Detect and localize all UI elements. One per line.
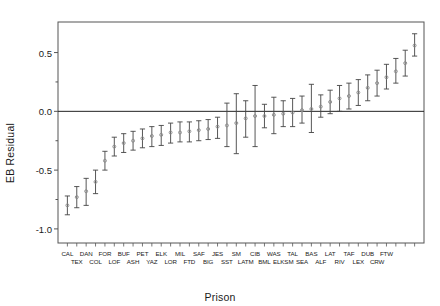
x-tick-label: CIB — [250, 250, 260, 257]
x-tick-label: BUF — [118, 250, 130, 257]
x-tick-label: FOR — [99, 250, 112, 257]
error-bar-point — [412, 34, 417, 56]
x-tick-label: YAZ — [146, 258, 157, 265]
x-tick-label: WAS — [267, 250, 281, 257]
error-bar-point — [234, 94, 239, 154]
chart-figure: EB Residual Prison 0.50.0-0.5-1.0 CALTEX… — [0, 0, 440, 306]
x-tick-label: DUB — [361, 250, 374, 257]
error-bar-point — [74, 187, 79, 208]
error-bar-point — [365, 75, 370, 101]
error-bar-point — [187, 122, 192, 142]
error-bar-point — [112, 137, 117, 156]
plot-frame — [58, 22, 424, 243]
x-tick-label: TAF — [343, 250, 354, 257]
error-bar-point — [206, 120, 211, 140]
x-tick-label: CAL — [62, 250, 74, 257]
x-tick-label: LOR — [164, 258, 176, 265]
x-tick-label: LAT — [325, 250, 336, 257]
x-tick-label: COL — [89, 258, 101, 265]
y-tick-label: 0.5 — [20, 47, 52, 58]
error-bar-point — [102, 151, 107, 170]
x-tick-label: LATM — [238, 258, 254, 265]
error-bar-point — [356, 80, 361, 106]
error-bar-point — [177, 122, 182, 142]
error-bar-point — [403, 50, 408, 76]
x-tick-label: CRW — [370, 258, 384, 265]
error-bar-point — [281, 101, 286, 127]
error-bar-point — [328, 90, 333, 114]
error-bar-point — [224, 103, 229, 146]
x-tick-label: SM — [232, 250, 241, 257]
x-tick-label: ASH — [127, 258, 139, 265]
error-bar-point — [393, 58, 398, 83]
error-bar-point — [196, 121, 201, 141]
error-bar-point — [252, 85, 257, 146]
x-tick-label: FTD — [184, 258, 196, 265]
error-bar-point — [337, 85, 342, 111]
error-bar-point — [384, 64, 389, 89]
error-bar-point — [65, 196, 70, 215]
x-tick-label: ELKSM — [273, 258, 293, 265]
error-bar-point — [271, 97, 276, 133]
x-tick-label: ALF — [315, 258, 326, 265]
error-bar-point — [290, 98, 295, 126]
x-tick-label: MIL — [175, 250, 185, 257]
x-tick-label: BIG — [203, 258, 213, 265]
x-tick-label: DAN — [80, 250, 93, 257]
error-bar-point — [93, 170, 98, 194]
error-bar-point — [168, 123, 173, 143]
error-bar-point — [140, 129, 145, 148]
error-bar-point — [374, 70, 379, 96]
x-tick-label: TEX — [71, 258, 83, 265]
x-tick-label: SST — [221, 258, 233, 265]
x-tick-label: BAS — [305, 250, 317, 257]
error-bar-point — [159, 125, 164, 145]
x-tick-label: PET — [137, 250, 149, 257]
x-tick-label: ELK — [156, 250, 167, 257]
x-tick-label: SEA — [296, 258, 308, 265]
error-bar-point — [243, 101, 248, 137]
y-tick-label: -1.0 — [20, 223, 52, 234]
x-tick-label: JES — [212, 250, 223, 257]
error-bar-point — [215, 117, 220, 138]
x-tick-label: LOF — [108, 258, 120, 265]
y-tick-label: 0.0 — [20, 106, 52, 117]
error-bar-point — [299, 96, 304, 123]
x-tick-label: LEX — [353, 258, 364, 265]
error-bar-point — [149, 127, 154, 147]
y-tick-label: -0.5 — [20, 165, 52, 176]
x-tick-label: RIV — [335, 258, 345, 265]
x-tick-label: TAL — [287, 250, 298, 257]
error-bar-point — [121, 134, 126, 153]
error-bar-point — [262, 104, 267, 128]
error-bar-point — [346, 83, 351, 109]
error-bar-point — [84, 178, 89, 205]
x-tick-label: BML — [258, 258, 270, 265]
x-tick-label: FTW — [380, 250, 393, 257]
error-bar-point — [309, 84, 314, 132]
error-bar-point — [130, 131, 135, 150]
x-tick-label: SAF — [193, 250, 205, 257]
error-bar-point — [318, 95, 323, 117]
